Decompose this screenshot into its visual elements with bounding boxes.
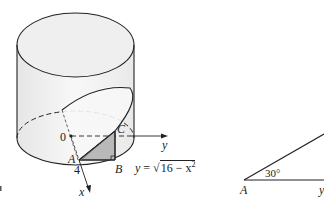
figure: 0 A B C 4 x y y = √16 − x2 A 30° y <box>0 0 324 204</box>
angle-label: 30° <box>265 168 280 179</box>
origin-label: 0 <box>60 131 66 143</box>
right-triangle-hypotenuse <box>244 134 324 180</box>
x-axis-label: x <box>79 186 84 198</box>
x-axis-arrow-icon <box>86 185 91 193</box>
cylinder-top-ellipse <box>17 13 134 77</box>
right-edge-label: y <box>319 184 324 196</box>
radius-label: 4 <box>74 164 80 176</box>
equation-equals: = <box>143 161 150 175</box>
curve-equation: y = √16 − x2 <box>135 161 195 174</box>
equation-radicand: 16 − x <box>161 161 192 175</box>
right-triangle <box>244 134 324 180</box>
right-vertex-a-label: A <box>240 184 247 196</box>
equation-exponent: 2 <box>191 160 195 169</box>
equation-radicand-wrap: 16 − x2 <box>160 160 196 175</box>
point-c-label: C <box>117 123 125 135</box>
equation-lhs: y <box>135 161 140 175</box>
origin-dot <box>69 134 72 137</box>
panel-tag-fragment <box>0 186 2 191</box>
y-axis-label: y <box>162 139 167 151</box>
point-b-label: B <box>115 163 122 175</box>
sqrt-icon: √ <box>153 161 160 175</box>
